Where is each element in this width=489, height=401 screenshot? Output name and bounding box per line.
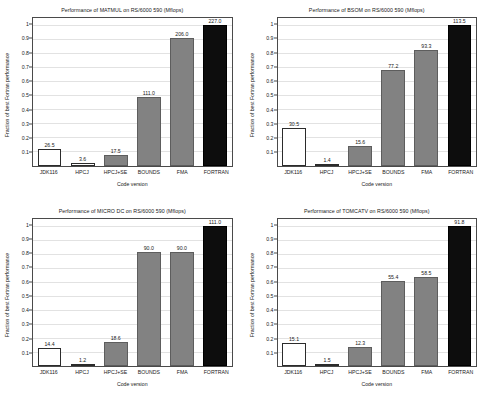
bar-item: 26.5 xyxy=(38,18,62,166)
bar-item: 90.0 xyxy=(170,219,194,367)
bar-value-label: 14.4 xyxy=(27,341,73,347)
x-tick-label: HPCJ xyxy=(70,169,94,179)
bar-value-label: 93.3 xyxy=(403,43,449,49)
bar-value-label: 15.6 xyxy=(337,139,383,145)
bar xyxy=(381,281,405,366)
bar xyxy=(282,128,306,166)
bar-value-label: 113.5 xyxy=(436,18,482,24)
chart-title: Performance of MICRO DC on RS/6000 590 (… xyxy=(0,208,245,214)
x-tick-label: FORTRAN xyxy=(204,369,228,379)
x-axis-label: Code version xyxy=(277,181,478,187)
bar-series: 14.41.218.690.090.0111.0 xyxy=(33,219,232,367)
bar-value-label: 1.5 xyxy=(304,357,350,363)
bar-value-label: 91.8 xyxy=(436,219,482,225)
chart-panel-matmul: Performance of MATMUL on RS/6000 590 (Mf… xyxy=(0,0,245,201)
y-tick-label: 0.4 xyxy=(266,307,273,313)
chart-title: Performance of TOMCATV on RS/6000 590 (M… xyxy=(245,208,489,214)
x-tick-label: FMA xyxy=(170,169,194,179)
bar-value-label: 111.0 xyxy=(126,90,172,96)
axes-frame: 14.41.218.690.090.0111.0 xyxy=(32,218,233,368)
bar-value-label: 77.2 xyxy=(370,63,416,69)
bar-value-label: 1.4 xyxy=(304,157,350,163)
bar-value-label: 12.3 xyxy=(337,340,383,346)
bar-item: 77.2 xyxy=(381,18,405,166)
axes-frame: 30.51.415.677.293.3113.5 xyxy=(277,17,478,167)
y-tick-label: 0.9 xyxy=(22,35,29,41)
y-tick-label: 0.7 xyxy=(22,264,29,270)
bar-item: 227.0 xyxy=(203,18,227,166)
x-tick-label: HPCJ+SE xyxy=(348,369,372,379)
bar-item: 1.2 xyxy=(71,219,95,367)
y-tick-label: 0.4 xyxy=(22,107,29,113)
bar xyxy=(170,252,194,366)
x-tick-label: JDK116 xyxy=(281,169,305,179)
bar-value-label: 227.0 xyxy=(192,18,238,24)
x-tick-label: HPCJ xyxy=(315,369,339,379)
axes-frame: 26.53.617.5111.0206.0227.0 xyxy=(32,17,233,167)
y-tick-label: 0.5 xyxy=(22,92,29,98)
y-tick-label: 0.1 xyxy=(22,149,29,155)
axes-frame: 15.11.512.355.458.591.8 xyxy=(277,218,478,368)
x-tick-label: JDK116 xyxy=(37,169,61,179)
bar-item: 91.8 xyxy=(448,219,472,367)
bar-item: 111.0 xyxy=(203,219,227,367)
x-tick-label: FORTRAN xyxy=(204,169,228,179)
bar-series: 26.53.617.5111.0206.0227.0 xyxy=(33,18,232,166)
bar xyxy=(315,164,339,166)
bar xyxy=(315,364,339,366)
x-tick-label: FMA xyxy=(415,369,439,379)
y-tick-label: 0.6 xyxy=(266,78,273,84)
bar-item: 1.4 xyxy=(315,18,339,166)
bar-item: 18.6 xyxy=(104,219,128,367)
chart-grid: Performance of MATMUL on RS/6000 590 (Mf… xyxy=(0,0,489,401)
bar xyxy=(448,25,472,165)
bar xyxy=(71,163,95,165)
x-tick-label: HPCJ+SE xyxy=(103,169,127,179)
bar-item: 111.0 xyxy=(137,18,161,166)
bar xyxy=(348,146,372,165)
bar xyxy=(38,149,62,165)
x-axis-ticks: JDK116HPCJHPCJ+SEBOUNDSFMAFORTRAN xyxy=(32,169,233,179)
bar-item: 15.6 xyxy=(348,18,372,166)
x-tick-label: BOUNDS xyxy=(137,369,161,379)
y-tick-label: 0.8 xyxy=(22,50,29,56)
bar-item: 55.4 xyxy=(381,219,405,367)
y-tick-label: 0.6 xyxy=(22,279,29,285)
y-tick-label: 0.1 xyxy=(22,350,29,356)
bar-value-label: 30.5 xyxy=(271,121,317,127)
x-axis-ticks: JDK116HPCJHPCJ+SEBOUNDSFMAFORTRAN xyxy=(32,369,233,379)
bar xyxy=(170,38,194,165)
y-tick-label: 0.7 xyxy=(266,264,273,270)
y-tick-label: 0.9 xyxy=(266,236,273,242)
plot-area: 14.41.218.690.090.0111.0 xyxy=(32,218,233,368)
bar-series: 15.11.512.355.458.591.8 xyxy=(278,219,477,367)
bar-series: 30.51.415.677.293.3113.5 xyxy=(278,18,477,166)
x-tick-label: BOUNDS xyxy=(137,169,161,179)
plot-area: 26.53.617.5111.0206.0227.0 xyxy=(32,17,233,167)
y-tick-label: 0.4 xyxy=(22,307,29,313)
bar xyxy=(381,70,405,166)
y-tick-label: 0.3 xyxy=(266,321,273,327)
bar-value-label: 26.5 xyxy=(27,142,73,148)
x-tick-label: HPCJ+SE xyxy=(348,169,372,179)
bar-value-label: 15.1 xyxy=(271,336,317,342)
x-tick-label: JDK116 xyxy=(281,369,305,379)
chart-panel-microdc: Performance of MICRO DC on RS/6000 590 (… xyxy=(0,201,245,401)
bar-value-label: 90.0 xyxy=(159,245,205,251)
y-tick-label: 0.4 xyxy=(266,107,273,113)
bar xyxy=(414,277,438,366)
bar-item: 3.6 xyxy=(71,18,95,166)
bar xyxy=(71,364,95,366)
x-tick-label: JDK116 xyxy=(37,369,61,379)
bar-value-label: 17.5 xyxy=(93,148,139,154)
bar-item: 17.5 xyxy=(104,18,128,166)
y-tick-label: 0.7 xyxy=(266,64,273,70)
bar xyxy=(104,342,128,366)
bar xyxy=(203,226,227,366)
y-tick-label: 0.9 xyxy=(266,35,273,41)
bar xyxy=(448,226,472,366)
bar xyxy=(203,25,227,165)
chart-title: Performance of BSOM on RS/6000 590 (Mflo… xyxy=(245,7,489,13)
y-axis-ticks: 0.10.20.30.40.50.60.70.80.91 xyxy=(245,218,277,368)
bar-item: 93.3 xyxy=(414,18,438,166)
